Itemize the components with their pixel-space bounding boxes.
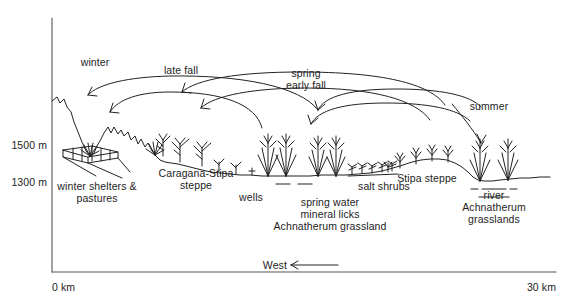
season-label-winter: winter [81, 56, 110, 69]
season-label-spring: spring [291, 67, 320, 80]
achnatherum-tuft-1 [258, 134, 278, 176]
zone-label-caragana-stipa-l2: steppe [180, 179, 212, 192]
zone-label-stipa-steppe: Stipa steppe [397, 172, 457, 185]
zone-label-achnatherum-grassland: Achnatherum grassland [274, 220, 387, 233]
zone-label-wells: wells [239, 191, 263, 204]
zone-label-caragana-stipa-l1: Caragana-Stipa [159, 167, 234, 180]
direction-label-west: West [263, 259, 287, 272]
zone-label-mineral-licks: mineral licks [300, 208, 359, 221]
west-direction-arrow[interactable] [291, 261, 338, 269]
winter-shelter-structure [63, 146, 130, 178]
x-tick-0km: 0 km [52, 281, 75, 294]
diagram-canvas: 1500 m 1300 m 0 km 30 km West winter lat… [0, 0, 565, 308]
arrow-spring-early-fall-inner [308, 103, 470, 124]
zone-label-spring-water: spring water [301, 196, 359, 209]
season-label-early-fall: early fall [286, 79, 326, 92]
stipa-bunch-1 [395, 153, 405, 168]
x-tick-30km: 30 km [527, 281, 556, 294]
grass-tuft-mountain-1 [81, 143, 99, 156]
achnatherum-river-tuft-1 [470, 139, 490, 181]
zone-label-grasslands-l3: grasslands [468, 213, 520, 226]
well-marker-1 [249, 168, 255, 175]
caragana-shrub-3 [194, 142, 211, 166]
achnatherum-tuft-3 [309, 136, 327, 176]
achnatherum-tuft-4 [327, 136, 345, 176]
zone-label-achnatherum-l2: Achnatherum [462, 201, 526, 214]
caragana-shrub-2 [172, 138, 189, 162]
season-label-late-fall: late fall [164, 64, 198, 77]
zone-label-winter-shelters-l1: winter shelters & [57, 180, 136, 193]
achnatherum-tuft-2 [276, 134, 296, 176]
y-tick-1500: 1500 m [11, 139, 47, 152]
arrow-winter-inner [110, 92, 262, 128]
arrow-winter [88, 76, 318, 110]
zone-label-winter-shelters-l2: pastures [76, 192, 117, 205]
achnatherum-river-tuft-2 [498, 139, 518, 180]
zone-label-river: river [484, 189, 505, 202]
y-tick-1300: 1300 m [11, 176, 47, 189]
season-label-summer: summer [470, 100, 509, 113]
caragana-shrub-1 [156, 134, 170, 156]
